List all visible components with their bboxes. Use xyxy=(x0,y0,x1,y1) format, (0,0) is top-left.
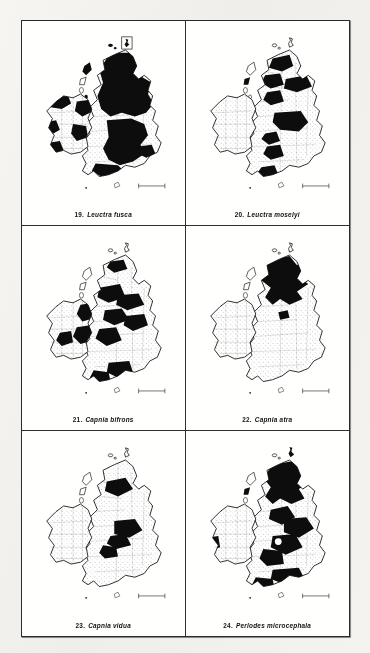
map-panel-19[interactable]: 19.Leuctra fusca xyxy=(22,21,186,226)
british-isles-map-21 xyxy=(28,239,178,406)
map-number-19: 19. xyxy=(75,211,85,218)
orkney-islands-19 xyxy=(108,43,117,48)
orkney-islands-20 xyxy=(273,43,281,48)
map-figure-20 xyxy=(186,21,350,211)
map-number-20: 20. xyxy=(235,211,245,218)
hebrides-24 xyxy=(244,472,256,503)
map-caption-21: 21.Capnia bifrons xyxy=(73,416,134,431)
channel-islands-19 xyxy=(86,182,121,188)
channel-islands-21 xyxy=(86,387,121,393)
channel-islands-23 xyxy=(86,592,121,598)
map-panel-22[interactable]: 22.Capnia atra xyxy=(186,226,350,431)
shetland-inset-20 xyxy=(289,37,294,46)
map-caption-24: 24.Perlodes microcephala xyxy=(223,622,311,636)
orkney-islands-22 xyxy=(273,248,281,253)
map-caption-19: 19.Leuctra fusca xyxy=(75,211,132,226)
scale-bar-20 xyxy=(303,183,329,188)
orkney-islands-23 xyxy=(109,454,117,459)
map-number-24: 24. xyxy=(223,622,233,629)
map-panel-23[interactable]: 23.Capnia vidua xyxy=(22,431,186,636)
ireland-outline-24 xyxy=(211,504,256,564)
map-panel-24[interactable]: 24.Perlodes microcephala xyxy=(186,431,350,636)
scale-bar-22 xyxy=(303,388,329,393)
map-species-22: Capnia atra xyxy=(255,416,293,423)
british-isles-map-20 xyxy=(192,34,342,201)
ireland-outline-23 xyxy=(47,504,92,564)
channel-islands-22 xyxy=(250,387,285,393)
british-isles-map-19 xyxy=(28,34,178,201)
map-figure-23 xyxy=(22,431,185,622)
shetland-inset-24 xyxy=(289,447,295,457)
shetland-inset-21 xyxy=(125,242,130,251)
map-number-23: 23. xyxy=(76,622,86,629)
channel-islands-20 xyxy=(250,182,285,188)
hebrides-20 xyxy=(244,62,256,99)
british-isles-map-22 xyxy=(192,239,342,406)
map-caption-22: 22.Capnia atra xyxy=(242,416,292,431)
map-number-22: 22. xyxy=(242,416,252,423)
map-panel-21[interactable]: 21.Capnia bifrons xyxy=(22,226,186,431)
map-species-24: Perlodes microcephala xyxy=(236,622,311,629)
ireland-outline-20 xyxy=(211,94,256,154)
map-figure-19 xyxy=(22,21,185,211)
british-isles-map-23 xyxy=(28,444,178,611)
ireland-outline-22 xyxy=(211,299,256,359)
map-species-19: Leuctra fusca xyxy=(87,211,132,218)
british-isles-map-24 xyxy=(192,444,342,611)
orkney-islands-21 xyxy=(109,248,117,253)
map-caption-23: 23.Capnia vidua xyxy=(76,622,131,636)
orkney-islands-24 xyxy=(273,454,281,459)
map-panel-20[interactable]: 20.Leuctra moselyi xyxy=(186,21,350,226)
scale-bar-23 xyxy=(139,594,165,599)
scale-bar-19 xyxy=(139,183,165,188)
scale-bar-21 xyxy=(139,388,165,393)
channel-islands-24 xyxy=(250,592,285,598)
hebrides-19 xyxy=(80,62,92,99)
hebrides-21 xyxy=(80,267,92,298)
hebrides-23 xyxy=(80,472,92,503)
shetland-inset-22 xyxy=(289,242,294,251)
map-figure-21 xyxy=(22,226,185,416)
map-species-23: Capnia vidua xyxy=(88,622,131,629)
map-number-21: 21. xyxy=(73,416,83,423)
shetland-inset-19 xyxy=(122,36,132,48)
distribution-map-plate: 19.Leuctra fusca xyxy=(21,20,350,637)
map-figure-24 xyxy=(186,431,350,622)
hebrides-22 xyxy=(244,267,256,298)
scale-bar-24 xyxy=(303,594,329,599)
shetland-inset-23 xyxy=(125,448,130,457)
map-caption-20: 20.Leuctra moselyi xyxy=(235,211,300,226)
map-species-20: Leuctra moselyi xyxy=(247,211,299,218)
map-species-21: Capnia bifrons xyxy=(85,416,133,423)
map-figure-22 xyxy=(186,226,350,416)
